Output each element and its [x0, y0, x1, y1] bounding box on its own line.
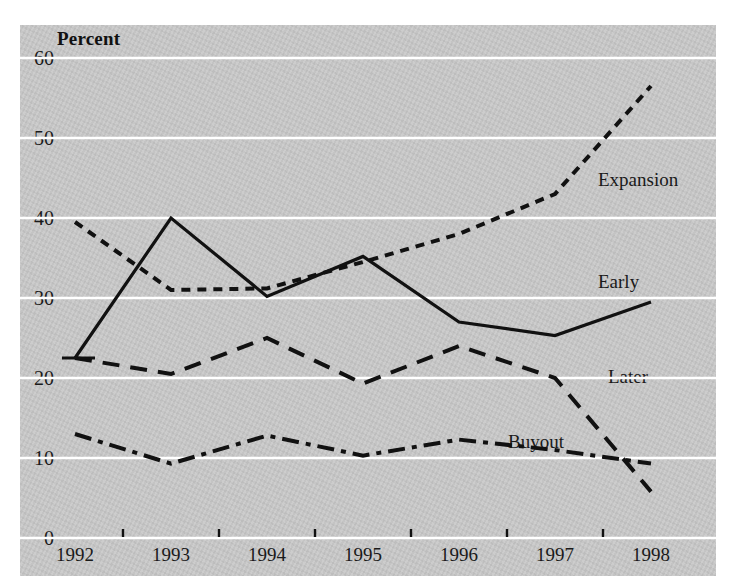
series-lines-group: [62, 86, 651, 492]
chart-figure: Percent 60 50 40 30 20 10 0 1992 1993 19…: [0, 0, 731, 583]
series-line-early: [75, 218, 651, 358]
chart-svg: [0, 0, 731, 583]
x-axis-ticks-group: [123, 529, 603, 537]
series-line-later: [75, 338, 651, 492]
gridlines-group: [20, 58, 716, 538]
series-line-expansion: [75, 86, 651, 290]
